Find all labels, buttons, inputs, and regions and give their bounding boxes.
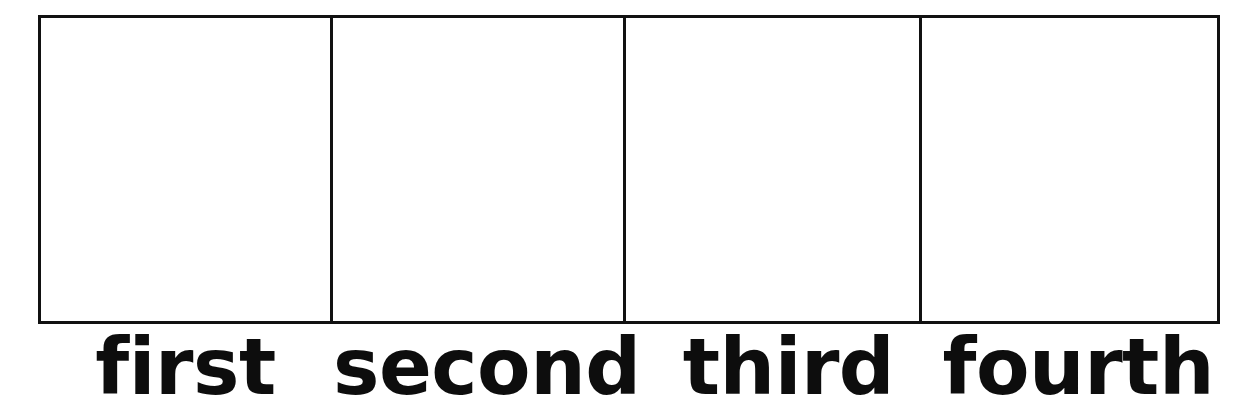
ordinal-label-first: first (38, 330, 333, 404)
ordinal-label-row: first second third fourth (38, 330, 1220, 410)
ordinal-cell-fourth[interactable] (922, 18, 1217, 321)
ordinal-cell-grid (38, 15, 1220, 324)
worksheet-page: first second third fourth (0, 0, 1245, 410)
ordinal-cell-third[interactable] (626, 18, 922, 321)
ordinal-label-second: second (333, 330, 641, 404)
ordinal-label-fourth: fourth (937, 330, 1220, 404)
ordinal-cell-first[interactable] (41, 18, 333, 321)
ordinal-label-third: third (641, 330, 937, 404)
ordinal-cell-second[interactable] (333, 18, 626, 321)
